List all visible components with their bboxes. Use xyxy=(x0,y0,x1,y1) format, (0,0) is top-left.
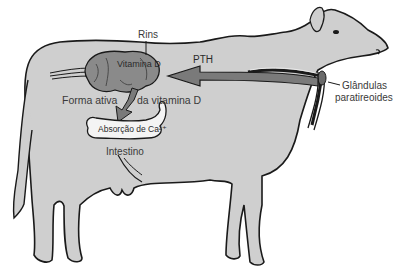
vitamin-d-label: Vitamina D xyxy=(117,60,161,69)
kidney-icon xyxy=(85,51,159,92)
parathyroid-pointer xyxy=(328,82,340,85)
cow-illustration xyxy=(0,0,403,275)
cow-body xyxy=(25,9,388,265)
parathyroid-label-line2: paratireoides xyxy=(335,93,393,103)
active-form-label: Forma ativa xyxy=(62,95,117,106)
parathyroid-label-line1: Glândulas xyxy=(342,81,387,91)
calcium-absorption-label: Absorção de Ca²⁺ xyxy=(98,125,167,134)
parathyroid-gland-icon xyxy=(318,71,326,85)
cow-eye xyxy=(333,30,339,34)
cow-tail xyxy=(13,80,32,218)
active-form-vitamin-label: da vitamina D xyxy=(137,95,201,106)
diagram-canvas: Rins Vitamina D PTH Forma ativa da vitam… xyxy=(0,0,403,275)
pth-label: PTH xyxy=(193,55,213,65)
intestine-label: Intestino xyxy=(106,147,144,157)
kidneys-label: Rins xyxy=(138,30,158,40)
